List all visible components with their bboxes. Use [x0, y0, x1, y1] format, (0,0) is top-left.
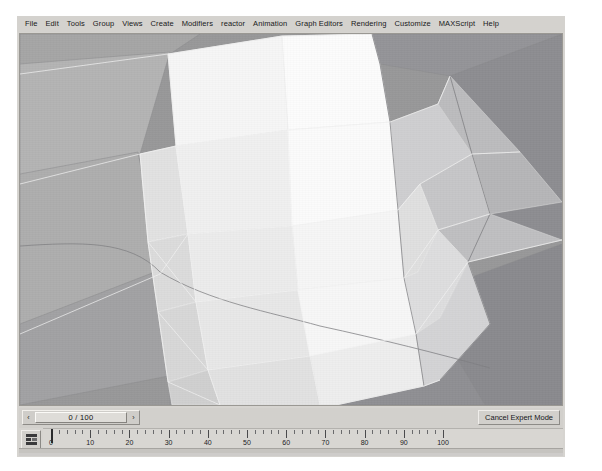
- time-slider-prev-icon[interactable]: ‹: [23, 411, 34, 424]
- ruler-tick-minor: [184, 430, 185, 434]
- menu-item-graph-editors[interactable]: Graph Editors: [291, 18, 347, 30]
- ruler-tick-minor: [310, 430, 311, 434]
- ruler-tick-minor: [122, 430, 123, 434]
- ruler-tick-major: [208, 430, 209, 438]
- ruler-tick-minor: [271, 430, 272, 434]
- ruler-tick-minor: [231, 430, 232, 434]
- ruler-tick-label: 30: [165, 439, 173, 446]
- cancel-expert-mode-button[interactable]: Cancel Expert Mode: [478, 410, 560, 425]
- menu-item-file[interactable]: File: [21, 18, 42, 30]
- ruler-tick-minor: [75, 430, 76, 434]
- ruler-tick-minor: [341, 430, 342, 434]
- ruler-tick-minor: [239, 430, 240, 434]
- ruler-tick-minor: [59, 430, 60, 434]
- ruler-tick-minor: [318, 430, 319, 434]
- application-window: File Edit Tools Group Views Create Modif…: [17, 16, 565, 457]
- time-slider[interactable]: ‹ 0 / 100 ›: [22, 410, 140, 425]
- ruler-tick-minor: [349, 430, 350, 434]
- menu-item-views[interactable]: Views: [118, 18, 146, 30]
- ruler-tick-minor: [255, 430, 256, 434]
- ruler-tick-minor: [435, 430, 436, 434]
- ruler-tick-minor: [294, 430, 295, 434]
- ruler-tick-minor: [388, 430, 389, 434]
- ruler-tick-minor: [419, 430, 420, 434]
- ruler-tick-label: 80: [361, 439, 369, 446]
- viewport-mesh-render[interactable]: [20, 34, 562, 405]
- ruler-tick-minor: [153, 430, 154, 434]
- ruler-tick-label: 70: [321, 439, 329, 446]
- ruler-tick-label: 60: [282, 439, 290, 446]
- ruler-tick-minor: [82, 430, 83, 434]
- ruler-tick-major: [286, 430, 287, 438]
- ruler-tick-minor: [145, 430, 146, 434]
- ruler-tick-minor: [192, 430, 193, 434]
- track-bar: 0102030405060708090100: [19, 428, 563, 453]
- ruler-tick-label: 10: [86, 439, 94, 446]
- key-filter-icon[interactable]: [21, 430, 41, 449]
- key-filter-glyph: [25, 433, 38, 446]
- time-slider-bar: ‹ 0 / 100 › Cancel Expert Mode: [19, 408, 563, 428]
- time-slider-thumb[interactable]: 0 / 100: [35, 412, 127, 423]
- ruler-tick-major: [443, 430, 444, 438]
- ruler-tick-label: 100: [437, 439, 449, 446]
- menu-bar: File Edit Tools Group Views Create Modif…: [17, 16, 565, 32]
- ruler-tick-major: [169, 430, 170, 438]
- menu-item-group[interactable]: Group: [89, 18, 118, 30]
- cancel-expert-mode-label: Cancel Expert Mode: [485, 413, 553, 422]
- ruler-tick-minor: [114, 430, 115, 434]
- viewport[interactable]: [19, 33, 563, 406]
- menu-item-create[interactable]: Create: [147, 18, 178, 30]
- ruler-tick-minor: [412, 430, 413, 434]
- ruler-tick-minor: [200, 430, 201, 434]
- ruler-tick-major: [247, 430, 248, 438]
- ruler-tick-minor: [372, 430, 373, 434]
- ruler-tick-label: 50: [243, 439, 251, 446]
- ruler-tick-minor: [263, 430, 264, 434]
- menu-item-maxscript[interactable]: MAXScript: [435, 18, 479, 30]
- ruler-tick-minor: [427, 430, 428, 434]
- bottom-strip: [19, 453, 563, 456]
- menu-item-edit[interactable]: Edit: [42, 18, 63, 30]
- ruler-tick-major: [404, 430, 405, 438]
- ruler-tick-minor: [380, 430, 381, 434]
- ruler-tick-minor: [216, 430, 217, 434]
- ruler-tick-minor: [357, 430, 358, 434]
- ruler-tick-minor: [161, 430, 162, 434]
- ruler-tick-minor: [106, 430, 107, 434]
- ruler-tick-minor: [176, 430, 177, 434]
- current-frame-marker[interactable]: [51, 429, 53, 443]
- ruler-tick-minor: [396, 430, 397, 434]
- menu-item-rendering[interactable]: Rendering: [347, 18, 391, 30]
- menu-item-reactor[interactable]: reactor: [217, 18, 249, 30]
- menu-item-modifiers[interactable]: Modifiers: [178, 18, 217, 30]
- ruler-tick-major: [365, 430, 366, 438]
- ruler-tick-minor: [333, 430, 334, 434]
- time-slider-next-icon[interactable]: ›: [128, 411, 139, 424]
- menu-item-tools[interactable]: Tools: [63, 18, 89, 30]
- menu-item-customize[interactable]: Customize: [390, 18, 434, 30]
- menu-item-help[interactable]: Help: [479, 18, 503, 30]
- ruler-tick-major: [129, 430, 130, 438]
- time-slider-value: 0 / 100: [68, 414, 93, 422]
- ruler-tick-minor: [67, 430, 68, 434]
- ruler-tick-label: 40: [204, 439, 212, 446]
- ruler-tick-minor: [98, 430, 99, 434]
- menu-item-animation[interactable]: Animation: [249, 18, 291, 30]
- ruler-tick-minor: [278, 430, 279, 434]
- ruler-tick-label: 20: [125, 439, 133, 446]
- ruler-tick-minor: [223, 430, 224, 434]
- ruler-tick-major: [325, 430, 326, 438]
- ruler-tick-minor: [137, 430, 138, 434]
- ruler-tick-minor: [302, 430, 303, 434]
- ruler-tick-label: 90: [400, 439, 408, 446]
- ruler-tick-major: [90, 430, 91, 438]
